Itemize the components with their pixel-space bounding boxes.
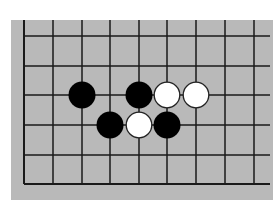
black-stone <box>126 82 153 109</box>
black-stone <box>69 82 96 109</box>
white-stone <box>183 82 209 108</box>
white-stone <box>126 112 152 138</box>
black-stone <box>154 112 181 139</box>
black-stone <box>97 112 124 139</box>
go-diagram <box>0 0 273 203</box>
white-stone <box>154 82 180 108</box>
